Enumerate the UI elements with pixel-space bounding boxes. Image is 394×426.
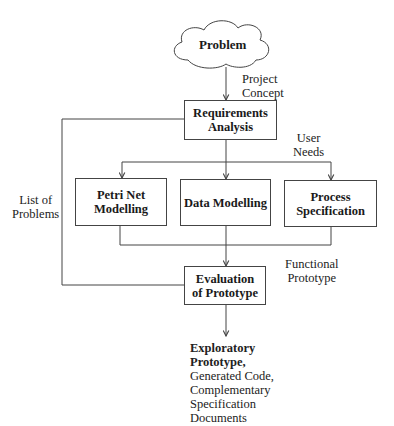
- evaluation-of-prototype-node: Evaluation of Prototype: [184, 266, 266, 305]
- edge-label-line: Concept: [242, 86, 284, 100]
- data-modelling-node: Data Modelling: [180, 179, 271, 226]
- output-line: Documents: [190, 411, 274, 425]
- node-label-line: Analysis: [193, 120, 268, 134]
- output-title-line: Prototype,: [190, 355, 246, 369]
- edge-label-project-concept: Project Concept: [242, 72, 284, 100]
- petri-net-modelling-node: Petri Net Modelling: [75, 178, 167, 226]
- edge-label-user-needs: User Needs: [293, 131, 324, 159]
- node-label-line: Requirements: [193, 106, 268, 120]
- node-label-line: of Prototype: [192, 286, 258, 300]
- node-label-line: Evaluation: [192, 272, 258, 286]
- output-title-line: Exploratory: [190, 341, 255, 355]
- output-line: Complementary: [190, 383, 274, 397]
- requirements-analysis-node: Requirements Analysis: [184, 100, 277, 140]
- node-label-line: Process: [296, 190, 365, 204]
- process-specification-node: Process Specification: [284, 180, 377, 227]
- node-label-line: Modelling: [94, 202, 148, 216]
- edge-label-line: Project: [242, 72, 284, 86]
- edge-label-line: List of: [12, 193, 59, 207]
- edge-label-line: User: [293, 131, 324, 145]
- output-line: Generated Code,: [190, 369, 274, 383]
- node-label-line: Data Modelling: [184, 196, 267, 210]
- edge-label-line: Needs: [293, 145, 324, 159]
- node-label-line: Petri Net: [94, 188, 148, 202]
- output-line: Specification: [190, 397, 274, 411]
- edge-label-line: Problems: [12, 207, 59, 221]
- edge-label-list-of-problems: List of Problems: [12, 193, 59, 221]
- node-label-line: Specification: [296, 204, 365, 218]
- output-deliverables: Exploratory Prototype, Generated Code, C…: [190, 341, 274, 425]
- edge-label-line: Functional: [285, 257, 338, 271]
- edge-label-functional-prototype: Functional Prototype: [285, 257, 338, 285]
- edge-label-line: Prototype: [285, 271, 338, 285]
- problem-node: Problem: [199, 37, 246, 53]
